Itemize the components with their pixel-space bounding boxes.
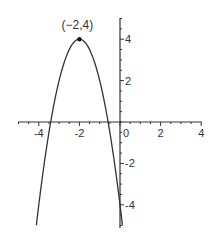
y-tick-label: -4 bbox=[125, 199, 135, 211]
x-tick-label: 4 bbox=[198, 127, 204, 139]
x-tick-label: 2 bbox=[158, 127, 164, 139]
y-tick-label: -2 bbox=[125, 157, 135, 169]
x-tick-label: -2 bbox=[75, 127, 85, 139]
y-axis: -4-224 bbox=[120, 18, 135, 228]
x-tick-label: 0 bbox=[123, 127, 129, 139]
vertex-marker bbox=[77, 37, 81, 41]
x-tick-label: -4 bbox=[34, 127, 44, 139]
y-tick-label: 2 bbox=[125, 75, 131, 87]
y-tick-label: 4 bbox=[125, 33, 131, 45]
parabola-chart: -4-2024 -4-224 (−2,4) bbox=[0, 0, 210, 235]
vertex-label: (−2,4) bbox=[62, 18, 94, 32]
